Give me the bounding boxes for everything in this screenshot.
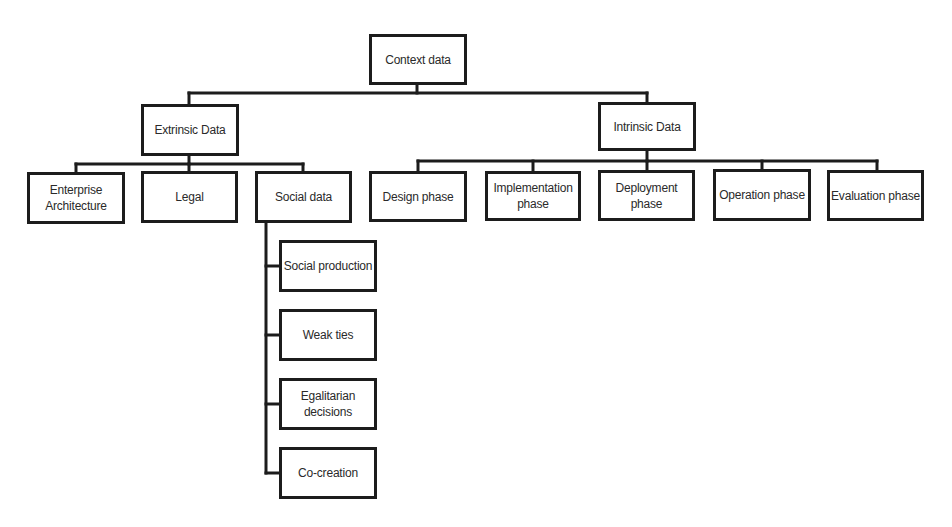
node-deployment-phase: Deployment phase: [598, 170, 695, 221]
node-legal: Legal: [141, 171, 238, 223]
connector-lines: [0, 0, 952, 527]
node-intrinsic-data: Intrinsic Data: [598, 102, 696, 151]
node-enterprise-architecture: Enterprise Architecture: [27, 172, 125, 224]
node-design-phase: Design phase: [369, 171, 467, 222]
diagram-canvas: Context data Extrinsic Data Intrinsic Da…: [0, 0, 952, 527]
node-weak-ties: Weak ties: [279, 309, 377, 361]
node-evaluation-phase: Evaluation phase: [827, 170, 924, 221]
node-social-data: Social data: [255, 171, 352, 223]
node-extrinsic-data: Extrinsic Data: [141, 104, 239, 156]
node-egalitarian-decisions: Egalitarian decisions: [279, 378, 377, 430]
node-context-data: Context data: [369, 34, 467, 85]
node-co-creation: Co-creation: [279, 447, 377, 499]
node-social-production: Social production: [279, 240, 377, 292]
node-operation-phase: Operation phase: [713, 169, 811, 221]
node-implementation-phase: Implementation phase: [485, 171, 581, 221]
